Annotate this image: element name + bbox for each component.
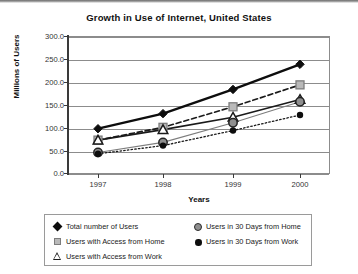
y-tick-mark-250 — [64, 59, 68, 60]
gridline-100 — [69, 129, 329, 130]
x-tick-label-1997: 1997 — [76, 180, 120, 189]
gridline-300 — [69, 37, 329, 38]
internet-growth-chart: Growth in Use of Internet, United States… — [0, 0, 358, 274]
gridline-50 — [69, 152, 329, 153]
legend-label: Users in 30 Days from Home — [206, 222, 301, 231]
legend-column-right: Users in 30 Days from Home Users in 30 D… — [191, 219, 311, 249]
legend-item-access-home: Users with Access from Home — [51, 234, 191, 249]
small-filled-circle-icon — [191, 235, 206, 248]
chart-title: Growth in Use of Internet, United States — [0, 12, 358, 23]
y-tick-label-300: 300.0 — [24, 32, 64, 41]
gray-circle-icon — [191, 220, 206, 233]
y-tick-label-200: 200.0 — [24, 78, 64, 87]
x-tick-label-1998: 1998 — [141, 180, 185, 189]
x-tick-mark-2000 — [300, 174, 301, 178]
legend-item-30days-home: Users in 30 Days from Home — [191, 219, 311, 234]
legend-item-30days-work: Users in 30 Days from Work — [191, 234, 311, 249]
legend-item-total-users: Total number of Users — [51, 219, 191, 234]
y-tick-label-150: 150.0 — [24, 101, 64, 110]
y-tick-mark-0 — [64, 173, 68, 174]
gray-square-icon — [51, 235, 66, 248]
x-tick-label-2000: 2000 — [278, 180, 322, 189]
plot-area — [68, 36, 330, 174]
y-axis-title: Millions of Users — [12, 15, 21, 119]
legend-label: Users with Access from Home — [66, 237, 165, 246]
gridline-200 — [69, 83, 329, 84]
y-tick-mark-200 — [64, 82, 68, 83]
legend-item-access-work: Users with Access from Work — [51, 249, 191, 264]
y-tick-label-50: 50.0 — [24, 147, 64, 156]
gridline-0 — [69, 174, 329, 175]
legend-label: Users in 30 Days from Work — [206, 237, 298, 246]
y-tick-mark-50 — [64, 151, 68, 152]
x-tick-mark-1998 — [163, 174, 164, 178]
y-tick-mark-300 — [64, 36, 68, 37]
legend-label: Total number of Users — [66, 222, 138, 231]
chart-legend: Total number of Users Users with Access … — [44, 214, 312, 266]
gridline-250 — [69, 60, 329, 61]
x-tick-mark-1999 — [233, 174, 234, 178]
y-tick-label-100: 100.0 — [24, 124, 64, 133]
x-tick-mark-1997 — [98, 174, 99, 178]
filled-diamond-icon — [51, 220, 66, 233]
y-tick-label-0: 0.0 — [24, 169, 64, 178]
y-axis-ticks: 300.0 250.0 200.0 150.0 100.0 50.0 0.0 — [20, 36, 64, 174]
y-tick-mark-150 — [64, 105, 68, 106]
y-tick-mark-100 — [64, 128, 68, 129]
gridline-150 — [69, 106, 329, 107]
legend-label: Users with Access from Work — [66, 252, 162, 261]
y-tick-label-250: 250.0 — [24, 55, 64, 64]
x-axis-title: Years — [68, 195, 330, 204]
legend-column-left: Total number of Users Users with Access … — [51, 219, 191, 264]
x-tick-label-1999: 1999 — [211, 180, 255, 189]
open-triangle-icon — [51, 250, 66, 263]
